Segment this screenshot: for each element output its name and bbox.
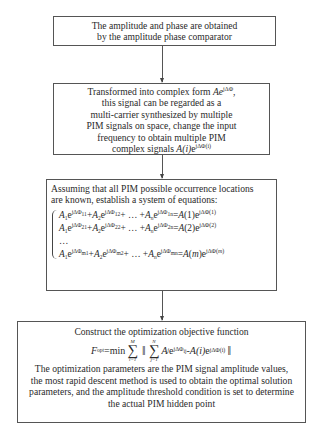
equation-row-m: A1ejΔΦm1+A2ejΔΦm2+ … +AnejΔΦmn=A(m)ejΔΦ(…: [59, 248, 276, 261]
step1-line2: by the amplitude phase comparator: [54, 31, 275, 42]
step2-line2: this signal can be regarded as a: [54, 97, 269, 108]
step2-line3: multi-carrier synthesized by multiple: [54, 109, 269, 120]
step4-line2: the most rapid descent method is used to…: [18, 375, 305, 386]
step3-intro-line2: are known, establish a system of equatio…: [51, 194, 276, 205]
equation-row-2: A1ejΔΦ21+A2ejΔΦ22+ … +AnejΔΦ2n=A(2)ejΔΦ(…: [59, 222, 276, 235]
objective-function-formula: Fopt =min M ∑ i=1 ‖ N ∑ j=1 AjejΔΦij - A…: [18, 337, 305, 363]
step1-box: The amplitude and phase are obtained by …: [53, 16, 276, 46]
step2-line5: frequency to obtain multiple PIM: [54, 132, 269, 143]
step3-box: Assuming that all PIM possible occurrenc…: [46, 179, 277, 291]
left-brace-icon: [52, 210, 58, 259]
equation-system: A1ejΔΦ11+A2ejΔΦ12+ … +AnejΔΦ1n=A(1)ejΔΦ(…: [51, 209, 276, 261]
step2-line4: PIM signals on space, change the input: [54, 120, 269, 131]
step1-line1: The amplitude and phase are obtained: [54, 20, 275, 31]
step2-line6: complex signals A(i)ejΔΦ(i): [54, 143, 269, 154]
norm-close-icon: ‖: [227, 345, 230, 356]
step2-box: Transformed into complex form AejΔΦ, thi…: [53, 83, 270, 155]
equation-ellipsis: …: [59, 235, 276, 248]
step4-line3: parameters, and the amplitude threshold …: [18, 386, 305, 397]
step4-line1: The optimization parameters are the PIM …: [18, 363, 305, 374]
step4-title: Construct the optimization objective fun…: [18, 326, 305, 337]
arrow-3-to-4: [162, 291, 163, 320]
step3-intro-line1: Assuming that all PIM possible occurrenc…: [51, 183, 276, 194]
inner-sum-icon: N ∑ j=1: [149, 339, 160, 362]
step4-line4: the actual PIM hidden point: [18, 398, 305, 409]
norm-open-icon: ‖: [142, 345, 145, 356]
outer-sum-icon: M ∑ i=1: [127, 339, 138, 362]
arrow-2-to-3: [162, 155, 163, 178]
step4-box: Construct the optimization objective fun…: [17, 321, 306, 423]
step2-line1: Transformed into complex form AejΔΦ,: [54, 86, 269, 97]
equation-row-1: A1ejΔΦ11+A2ejΔΦ12+ … +AnejΔΦ1n=A(1)ejΔΦ(…: [59, 209, 276, 222]
arrow-1-to-2: [162, 46, 163, 82]
